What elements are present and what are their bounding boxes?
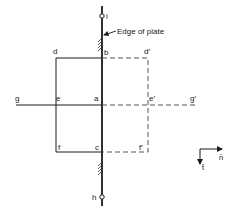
label-f-prime: f′ [139, 143, 143, 152]
plate-edge-diagram: i h Edge of plate d b d′ g e a e′ g′ f c… [0, 0, 235, 217]
annotation-leader [104, 31, 116, 35]
label-g: g [15, 94, 19, 103]
label-d-prime: d′ [144, 47, 150, 56]
dashed-element [102, 58, 195, 152]
label-b: b [104, 48, 109, 57]
label-g-prime: g′ [190, 94, 196, 103]
label-d: d [53, 47, 57, 56]
label-c: c [95, 143, 99, 152]
label-e: e [56, 94, 61, 103]
label-f: f [58, 143, 61, 152]
axes-indicator: n̄ t̄ [200, 149, 223, 172]
label-tangent: t̄ [202, 163, 205, 172]
point-i-marker [100, 14, 104, 18]
label-e-prime: e′ [149, 94, 155, 103]
point-h-marker [100, 195, 104, 199]
annotation-edge-of-plate: Edge of plate [117, 27, 165, 36]
label-h: h [92, 193, 96, 202]
label-normal: n̄ [219, 153, 223, 162]
label-a: a [94, 94, 99, 103]
label-i: i [106, 12, 108, 21]
